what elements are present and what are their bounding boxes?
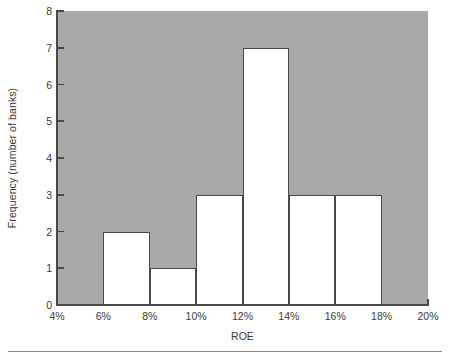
histogram-bar bbox=[243, 48, 289, 305]
x-axis-tick-mark bbox=[149, 299, 150, 305]
y-axis-title: Frequency (number of banks) bbox=[3, 11, 21, 305]
y-axis-tick-label: 1 bbox=[36, 263, 52, 273]
x-axis-tick-label: 14% bbox=[269, 310, 309, 323]
histogram-bar bbox=[335, 195, 381, 305]
x-axis-tick-mark bbox=[335, 299, 336, 305]
x-axis-tick-label: 6% bbox=[83, 310, 123, 323]
x-axis-tick-mark bbox=[103, 299, 104, 305]
y-axis-tick-mark bbox=[57, 231, 64, 233]
y-axis-tick-mark bbox=[57, 157, 64, 159]
y-axis-tick-mark bbox=[57, 84, 64, 86]
y-axis-tick-label: 4 bbox=[36, 153, 52, 163]
x-axis-tick-label: 8% bbox=[130, 310, 170, 323]
histogram-bar bbox=[196, 195, 242, 305]
x-axis-tick-label: 12% bbox=[223, 310, 263, 323]
y-axis-tick-label: 7 bbox=[36, 43, 52, 53]
x-axis-tick-labels: 4%6%8%10%12%14%16%18%20% bbox=[0, 310, 449, 324]
x-axis-tick-label: 10% bbox=[176, 310, 216, 323]
y-axis-tick-label: 2 bbox=[36, 227, 52, 237]
y-axis-tick-label: 5 bbox=[36, 116, 52, 126]
y-axis-tick-mark bbox=[57, 194, 64, 196]
x-axis-tick-mark bbox=[381, 299, 382, 305]
y-axis-tick-mark bbox=[57, 47, 64, 49]
y-axis-tick-label: 3 bbox=[36, 190, 52, 200]
histogram-bar bbox=[289, 195, 335, 305]
y-axis-tick-labels: 012345678 bbox=[22, 0, 52, 359]
x-axis-tick-mark bbox=[288, 299, 289, 305]
histogram-figure: Frequency (number of banks) 012345678 4%… bbox=[0, 0, 449, 359]
bottom-divider-rule bbox=[8, 351, 442, 352]
x-axis-tick-label: 4% bbox=[37, 310, 77, 323]
x-axis-tick-label: 16% bbox=[315, 310, 355, 323]
y-axis-tick-label: 8 bbox=[36, 6, 52, 16]
x-axis-title: ROE bbox=[57, 330, 428, 342]
y-axis-tick-label: 6 bbox=[36, 80, 52, 90]
x-axis-tick-label: 20% bbox=[408, 310, 448, 323]
x-axis-tick-mark bbox=[56, 299, 57, 305]
plot-area bbox=[57, 11, 428, 305]
y-axis-tick-label: 0 bbox=[36, 300, 52, 310]
y-axis-tick-mark bbox=[57, 267, 64, 269]
x-axis-tick-label: 18% bbox=[362, 310, 402, 323]
histogram-bar bbox=[103, 232, 149, 306]
x-axis-tick-mark bbox=[427, 299, 428, 305]
y-axis-tick-mark bbox=[57, 120, 64, 122]
x-axis-tick-mark bbox=[242, 299, 243, 305]
y-axis-tick-mark bbox=[57, 10, 64, 12]
x-axis-tick-mark bbox=[195, 299, 196, 305]
histogram-bar bbox=[150, 268, 196, 305]
